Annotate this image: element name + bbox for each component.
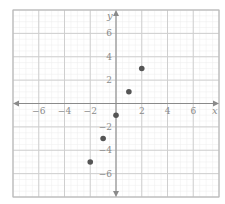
data-point [139, 66, 145, 72]
x-axis-label: x [212, 105, 218, 116]
y-tick-label: −2 [99, 122, 112, 132]
data-point [113, 112, 119, 118]
y-tick-label: −4 [99, 145, 113, 155]
y-axis-label: y [106, 10, 113, 21]
x-tick-label: −2 [84, 106, 97, 116]
x-tick-label: −6 [32, 106, 46, 116]
y-tick-label: 4 [106, 52, 112, 62]
data-point [100, 136, 106, 142]
data-point [126, 89, 132, 95]
y-axis-down-arrow-icon [113, 191, 119, 197]
x-axis-left-arrow-icon [13, 101, 19, 107]
x-tick-label: 2 [139, 106, 145, 116]
data-point [87, 159, 93, 165]
y-tick-label: −6 [99, 169, 113, 179]
x-tick-label: −4 [58, 106, 72, 116]
axes [13, 10, 219, 197]
y-tick-label: 2 [106, 75, 112, 85]
x-tick-label: 4 [165, 106, 171, 116]
y-axis-up-arrow-icon [113, 10, 119, 16]
coordinate-plane: −6−4−2246 642−2−4−6 x y [0, 0, 225, 204]
x-tick-label: 6 [190, 106, 196, 116]
y-tick-label: 6 [106, 28, 112, 38]
